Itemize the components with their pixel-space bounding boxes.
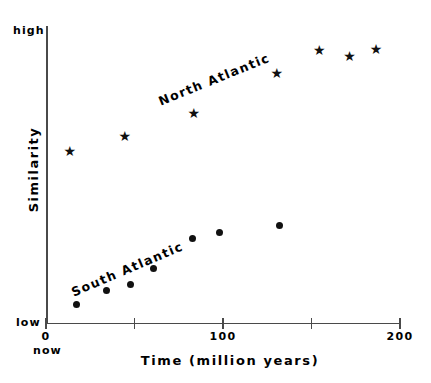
- data-point-north-atlantic-2: ★: [187, 108, 198, 119]
- x-axis-tick-label-200: 200: [370, 330, 430, 343]
- data-point-south-atlantic-0: [73, 301, 80, 308]
- series-label-south-atlantic: South Atlantic: [69, 239, 186, 300]
- data-point-north-atlantic-5: ★: [343, 51, 354, 62]
- x-axis-tick-200: [399, 318, 400, 329]
- data-point-north-atlantic-4: ★: [313, 45, 324, 56]
- data-point-south-atlantic-2: [127, 281, 134, 288]
- data-point-north-atlantic-0: ★: [64, 146, 75, 157]
- x-axis-tick-label-100: 100: [193, 330, 253, 343]
- series-label-north-atlantic: North Atlantic: [156, 50, 272, 108]
- x-axis-origin-now-label: now: [33, 344, 62, 357]
- data-point-north-atlantic-1: ★: [118, 131, 129, 142]
- x-axis-tick-0: [45, 318, 46, 329]
- x-axis-tick-150: [311, 318, 312, 329]
- y-axis-high-label: high: [13, 24, 45, 37]
- y-axis-title: Similarity: [26, 120, 41, 220]
- x-axis-tick-100: [222, 318, 223, 329]
- x-axis-title: Time (million years): [110, 353, 350, 368]
- x-axis-tick-50: [134, 318, 135, 329]
- data-point-south-atlantic-5: [216, 229, 223, 236]
- data-point-south-atlantic-6: [276, 222, 283, 229]
- y-axis-line: [46, 26, 48, 324]
- similarity-vs-time-scatter-chart: 0100200 high low now Similarity Time (mi…: [0, 0, 431, 383]
- data-point-north-atlantic-3: ★: [271, 68, 282, 79]
- x-axis-tick-label-0: 0: [16, 330, 76, 343]
- data-point-south-atlantic-4: [189, 235, 196, 242]
- y-axis-low-label: low: [16, 316, 41, 329]
- data-point-north-atlantic-6: ★: [370, 44, 381, 55]
- data-point-south-atlantic-1: [103, 287, 110, 294]
